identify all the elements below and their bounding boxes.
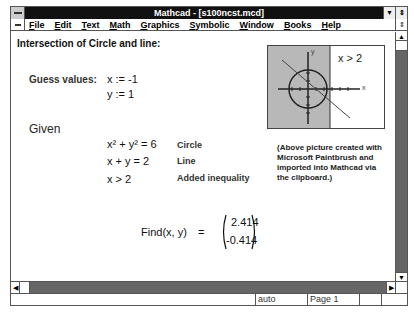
menu-label-rest: ymbolic — [195, 20, 229, 30]
vertical-scrollbar[interactable]: ▲ ▼ — [395, 32, 407, 281]
menu-label-rest: ext — [86, 20, 99, 30]
equation-line-label: Line — [177, 156, 196, 166]
guess-x[interactable]: x := -1 — [107, 73, 138, 85]
vertical-scroll-thumb[interactable] — [396, 41, 407, 51]
menu-accelerator: M — [109, 20, 117, 30]
result-y: -0.414 — [226, 234, 257, 246]
status-bar: auto Page 1 — [11, 293, 407, 305]
maximize-button[interactable]: ⇕ — [395, 7, 407, 19]
menu-books[interactable]: Books — [284, 19, 312, 31]
equation-circle[interactable]: x² + y² = 6 — [107, 138, 157, 150]
result-x: 2.414 — [231, 216, 259, 228]
picture-label: x > 2 — [338, 52, 362, 64]
menu-edit[interactable]: Edit — [55, 19, 72, 31]
menu-label-rest: ooks — [290, 20, 311, 30]
menu-symbolic[interactable]: Symbolic — [189, 19, 229, 31]
menu-accelerator: W — [239, 20, 247, 30]
picture-note: (Above picture created with Microsoft Pa… — [277, 143, 387, 183]
menu-label-rest: indow — [248, 20, 274, 30]
find-expression[interactable]: Find(x, y) = — [141, 226, 204, 238]
equation-inequality[interactable]: x > 2 — [107, 173, 131, 185]
menu-bar: FileEditTextMathGraphicsSymbolicWindowBo… — [11, 19, 407, 31]
menu-label-rest: ile — [35, 20, 45, 30]
menu-label-rest: ath — [117, 20, 131, 30]
given-label: Given — [29, 122, 60, 136]
minimize-button[interactable]: ▼ — [383, 7, 395, 19]
picture-axis-y: y — [311, 48, 315, 55]
menu-label-rest: raphics — [147, 20, 179, 30]
scroll-up-button[interactable]: ▲ — [396, 32, 407, 41]
scroll-right-button[interactable]: ▶ — [386, 282, 395, 293]
menu-math[interactable]: Math — [109, 19, 130, 31]
status-mode: auto — [255, 294, 307, 305]
equation-circle-label: Circle — [177, 140, 202, 150]
guess-values-label: Guess values: — [29, 74, 97, 85]
result-matrix[interactable]: 2.414 -0.414 — [220, 213, 258, 251]
scrollbar-corner — [395, 281, 407, 293]
equation-inequality-label: Added inequality — [177, 173, 250, 183]
menu-label-rest: dit — [61, 20, 72, 30]
find-call: Find(x, y) — [141, 226, 187, 238]
worksheet-heading: Intersection of Circle and line: — [17, 38, 160, 49]
menu-graphics[interactable]: Graphics — [140, 19, 179, 31]
status-cell-empty-1 — [359, 294, 381, 305]
mathcad-window: Mathcad - [s100ncst.mcd] ▼ ⇕ FileEditTex… — [10, 6, 408, 306]
find-equals: = — [198, 226, 204, 238]
menu-label-rest: elp — [328, 20, 341, 30]
menu-text[interactable]: Text — [82, 19, 100, 31]
horizontal-scrollbar[interactable]: ◀ ▶ — [11, 281, 395, 293]
scroll-down-button[interactable]: ▼ — [396, 272, 407, 281]
menu-help[interactable]: Help — [321, 19, 341, 31]
horizontal-scroll-thumb[interactable] — [20, 282, 30, 293]
menu-window[interactable]: Window — [239, 19, 273, 31]
scroll-left-button[interactable]: ◀ — [11, 282, 20, 293]
document-system-menu-button[interactable] — [11, 19, 25, 30]
document-restore-button[interactable]: ⇕ — [395, 19, 407, 30]
status-page: Page 1 — [307, 294, 359, 305]
worksheet[interactable]: Intersection of Circle and line: Guess v… — [11, 32, 395, 281]
title-bar: Mathcad - [s100ncst.mcd] ▼ ⇕ — [11, 7, 407, 19]
window-title: Mathcad - [s100ncst.mcd] — [154, 8, 264, 18]
picture-axis-x: x — [362, 84, 366, 91]
menu-file[interactable]: File — [29, 19, 45, 31]
paintbrush-picture[interactable]: x > 2 y x — [267, 45, 385, 129]
guess-y[interactable]: y := 1 — [107, 88, 134, 100]
status-cell-empty-2 — [381, 294, 407, 305]
system-menu-button[interactable] — [11, 7, 25, 19]
equation-line[interactable]: x + y = 2 — [107, 155, 149, 167]
circle-line-graph-icon — [268, 46, 384, 128]
